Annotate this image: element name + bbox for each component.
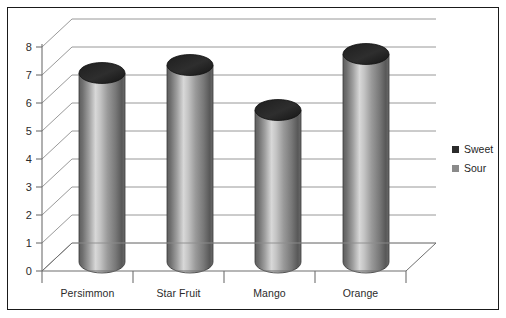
legend-item-sweet[interactable]: Sweet xyxy=(452,140,493,159)
y-tick-label-4: 4 xyxy=(10,153,32,165)
chart-screenshot: 8 7 6 5 4 3 2 1 0 Persimmon Star Fruit M… xyxy=(0,0,506,318)
y-tick-label-5: 5 xyxy=(10,125,32,137)
x-tick-label-star-fruit: Star Fruit xyxy=(133,287,224,299)
y-tick-label-3: 3 xyxy=(10,181,32,193)
x-tick-label-mango: Mango xyxy=(224,287,315,299)
floor-right-diagonal xyxy=(406,243,436,271)
legend-label-sour: Sour xyxy=(464,163,486,174)
y-tick-label-0: 0 xyxy=(10,265,32,277)
y-tick-label-1: 1 xyxy=(10,237,32,249)
x-axis-ticks xyxy=(42,271,406,283)
x-tick-label-persimmon: Persimmon xyxy=(42,287,133,299)
floor-left-diagonal xyxy=(42,243,72,271)
x-tick-label-orange: Orange xyxy=(315,287,406,299)
legend-swatch-sour xyxy=(452,165,459,172)
y-tick-label-6: 6 xyxy=(10,97,32,109)
y-tick-label-2: 2 xyxy=(10,209,32,221)
chart-legend: Sweet Sour xyxy=(452,140,493,178)
chart-plot-area: 8 7 6 5 4 3 2 1 0 Persimmon Star Fruit M… xyxy=(0,0,506,318)
y-tick-label-8: 8 xyxy=(10,41,32,53)
y-tick-label-7: 7 xyxy=(10,69,32,81)
legend-swatch-sweet xyxy=(452,146,459,153)
legend-label-sweet: Sweet xyxy=(464,144,493,155)
legend-item-sour[interactable]: Sour xyxy=(452,159,493,178)
chart-floor-layer xyxy=(0,0,506,318)
